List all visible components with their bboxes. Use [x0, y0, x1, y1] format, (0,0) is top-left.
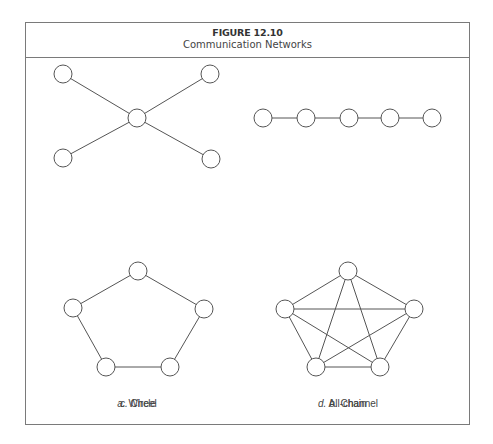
caption-label: All-channel	[329, 398, 378, 409]
edge	[285, 271, 348, 309]
node	[128, 109, 146, 127]
edge	[285, 309, 316, 367]
edge	[170, 309, 204, 367]
node	[202, 150, 220, 168]
node	[129, 262, 147, 280]
node	[97, 358, 115, 376]
edge	[380, 309, 414, 367]
edge	[63, 74, 137, 118]
node	[423, 109, 441, 127]
edge	[137, 118, 211, 159]
caption-label: Circle	[131, 398, 157, 409]
node	[371, 358, 389, 376]
caption-letter: d.	[318, 398, 326, 409]
caption-circle: c. Circle	[120, 398, 156, 409]
node	[340, 109, 358, 127]
node	[64, 299, 82, 317]
edge	[73, 271, 138, 308]
node	[54, 65, 72, 83]
node	[307, 358, 325, 376]
node	[254, 109, 272, 127]
caption-letter: c.	[120, 398, 128, 409]
edge	[73, 308, 106, 367]
node	[195, 300, 213, 318]
node	[201, 65, 219, 83]
network-chain	[254, 109, 441, 127]
node	[276, 300, 294, 318]
edge	[316, 271, 348, 367]
node	[54, 149, 72, 167]
node	[161, 358, 179, 376]
node	[381, 109, 399, 127]
network-diagrams	[0, 0, 493, 444]
network-all-channel	[276, 262, 423, 376]
node	[339, 262, 357, 280]
edge	[348, 271, 380, 367]
edge	[63, 118, 137, 158]
node	[405, 300, 423, 318]
edge	[137, 74, 210, 118]
edge	[138, 271, 204, 309]
network-wheel	[54, 65, 220, 168]
node	[297, 109, 315, 127]
network-circle	[64, 262, 213, 376]
caption-all-channel: d. All-channel	[318, 398, 378, 409]
edge	[348, 271, 414, 309]
